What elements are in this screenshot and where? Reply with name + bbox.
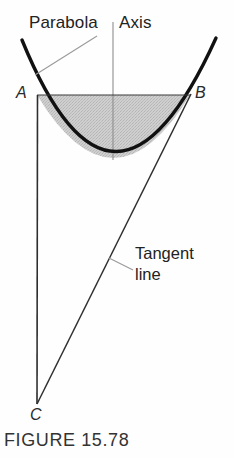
- figure-caption: FIGURE 15.78: [4, 430, 129, 451]
- point-label-a: A: [16, 84, 27, 101]
- tangent-line-label: Tangent line: [135, 243, 194, 284]
- point-label-b: B: [195, 84, 206, 101]
- parabola-leader-line: [35, 36, 97, 75]
- tangent-leader-line: [109, 258, 133, 270]
- line-a-to-c: [37, 95, 38, 404]
- parabola-diagram: [0, 0, 234, 458]
- axis-label: Axis: [119, 14, 152, 32]
- parabola-label: Parabola: [29, 14, 98, 32]
- figure-container: Parabola Axis Tangent line A B C FIGURE …: [0, 0, 234, 458]
- point-label-c: C: [30, 406, 42, 423]
